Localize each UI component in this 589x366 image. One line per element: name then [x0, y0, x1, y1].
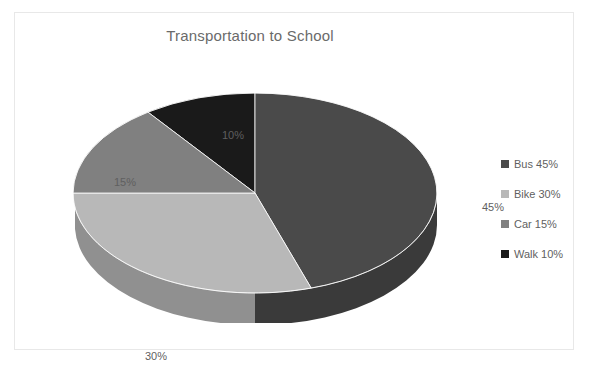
data-label-walk: 10%: [222, 129, 244, 141]
legend-label-bike: Bike 30%: [514, 188, 560, 200]
data-label-bike: 30%: [145, 350, 167, 362]
legend-swatch-icon-bus: [501, 160, 509, 168]
pie-chart-svg: [45, 63, 465, 323]
legend-label-car: Car 15%: [514, 218, 557, 230]
legend-item-bus[interactable]: Bus 45%: [501, 149, 589, 179]
legend-label-bus: Bus 45%: [514, 158, 558, 170]
data-label-car: 15%: [114, 176, 136, 188]
chart-frame: Transportation to School: [14, 12, 574, 350]
pie-chart: 45% 30% 15% 10%: [45, 63, 465, 323]
legend-swatch-icon-walk: [501, 250, 509, 258]
legend-item-car[interactable]: Car 15%: [501, 209, 589, 239]
legend-item-bike[interactable]: Bike 30%: [501, 179, 589, 209]
legend-swatch-icon-bike: [501, 190, 509, 198]
legend-label-walk: Walk 10%: [514, 248, 563, 260]
chart-title: Transportation to School: [15, 27, 485, 44]
legend-item-walk[interactable]: Walk 10%: [501, 239, 589, 269]
legend-swatch-icon-car: [501, 220, 509, 228]
chart-legend: Bus 45% Bike 30% Car 15% Walk 10%: [501, 149, 589, 269]
